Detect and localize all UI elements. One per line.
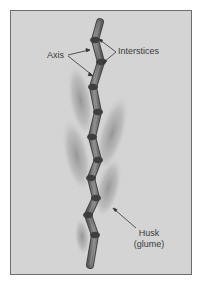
label-husk: Husk (glume): [128, 228, 170, 250]
label-axis: Axis: [47, 50, 64, 61]
label-husk-line1: Husk: [128, 228, 170, 239]
label-husk-line2: (glume): [128, 239, 170, 250]
label-interstices: Interstices: [118, 46, 159, 57]
